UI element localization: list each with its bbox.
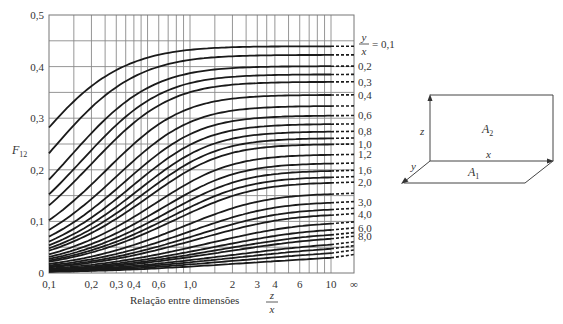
- y-axis-arrow: [404, 161, 430, 182]
- diagram-label-x: x: [485, 148, 491, 160]
- param-fraction-num: y: [361, 31, 367, 43]
- x-tick-label: 2: [230, 278, 236, 290]
- y-tick-label: 0,4: [30, 61, 44, 73]
- asymptote-dash: [331, 255, 354, 258]
- param-fraction-den: x: [361, 45, 367, 57]
- x-tick-label: 0,4: [127, 278, 141, 290]
- diagram-label-z: z: [419, 125, 425, 137]
- diagram-label-y: y: [410, 160, 416, 172]
- asymptote-dash: [331, 242, 354, 245]
- asymptote-dash: [331, 250, 354, 253]
- x-tick-label: 0,6: [152, 278, 166, 290]
- asymptote-dash: [331, 193, 354, 194]
- plane-A2-outline: [430, 95, 553, 161]
- param-suffix: = 0,1: [372, 38, 395, 50]
- view-factor-chart: 0,10,20,30,40,61,0234610∞00,10,20,30,40,…: [0, 0, 563, 324]
- chart-curves: [49, 46, 354, 272]
- x-axis-fraction-den: x: [269, 303, 275, 315]
- y-tick-label: 0,2: [30, 164, 44, 176]
- series-label: 4,0: [358, 208, 372, 220]
- x-axis-title: Relação entre dimensões: [130, 294, 239, 306]
- diagram-label-A2: A2: [481, 122, 493, 138]
- asymptote-dash: [331, 233, 354, 235]
- y-tick-label: 0,1: [30, 215, 44, 227]
- y-tick-label: 0,5: [30, 9, 44, 21]
- y-axis-title: F12: [11, 143, 27, 159]
- asymptote-dash: [331, 214, 354, 216]
- series-label: 8,0: [358, 230, 372, 242]
- geometry-diagram: z A2 x y A1: [401, 94, 554, 184]
- x-tick-label: 0,2: [85, 278, 99, 290]
- series-label: 3,0: [358, 196, 372, 208]
- curve-labels: 0,20,30,40,60,81,01,21,62,03,04,06,08,0: [358, 60, 372, 242]
- x-tick-label: 6: [297, 278, 303, 290]
- diagram-label-A1: A1: [467, 165, 479, 181]
- x-tick-label: 0,1: [42, 278, 56, 290]
- series-label: 0,2: [358, 60, 372, 72]
- asymptote-dash: [331, 228, 354, 230]
- x-tick-label: 1,0: [183, 278, 197, 290]
- asymptote-dash: [331, 177, 354, 178]
- asymptote-dash: [331, 182, 354, 183]
- asymptote-dash: [331, 170, 354, 171]
- series-label: 1,2: [358, 148, 372, 160]
- x-tick-label: ∞: [350, 278, 358, 290]
- asymptote-dash: [331, 236, 354, 239]
- series-label: 0,6: [358, 109, 372, 121]
- x-tick-label: 10: [326, 278, 338, 290]
- series-label: 0,4: [358, 89, 372, 101]
- series-label: 0,3: [358, 76, 372, 88]
- y-tick-label: 0: [39, 267, 45, 279]
- series-label: 1,6: [358, 164, 372, 176]
- series-label: 0,8: [358, 125, 372, 137]
- y-tick-label: 0,3: [30, 112, 44, 124]
- asymptote-dash: [331, 208, 354, 209]
- x-tick-label: 0,3: [109, 278, 123, 290]
- series-label: 2,0: [358, 176, 372, 188]
- x-tick-label: 3: [255, 278, 261, 290]
- asymptote-dash: [331, 163, 354, 164]
- asymptote-dash: [331, 202, 354, 203]
- x-axis-fraction-num: z: [269, 289, 275, 301]
- asymptote-dash: [331, 222, 354, 224]
